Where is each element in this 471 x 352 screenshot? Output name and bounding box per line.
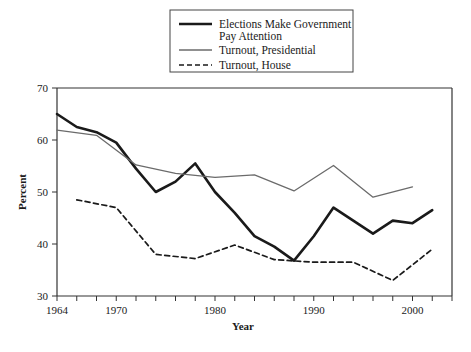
x-tick-label: 1964 (46, 304, 69, 316)
y-tick-label: 30 (37, 290, 49, 302)
series-line-2 (77, 200, 433, 281)
x-tick-label: 1990 (303, 304, 326, 316)
x-tick-label: 1980 (204, 304, 227, 316)
y-tick-label: 70 (37, 82, 49, 94)
x-axis-title: Year (232, 320, 254, 332)
y-tick-group: 3040506070 (37, 82, 57, 302)
y-tick-label: 50 (37, 186, 49, 198)
legend-label-0-line2: Pay Attention (219, 30, 282, 43)
y-axis-title: Percent (16, 174, 28, 210)
x-tick-label: 2000 (402, 304, 425, 316)
legend-label-1-line1: Turnout, Presidential (219, 44, 316, 57)
legend-label-0-line1: Elections Make Government (219, 18, 352, 30)
y-tick-label: 40 (37, 238, 49, 250)
chart-figure: 3040506070 19641970198019902000 Year Per… (0, 0, 471, 352)
x-tick-group: 19641970198019902000 (46, 296, 452, 316)
series-line-0 (57, 114, 432, 261)
y-tick-label: 60 (37, 134, 49, 146)
line-chart: 3040506070 19641970198019902000 Year Per… (0, 0, 471, 352)
chart-legend: Elections Make Government Pay Attention … (170, 10, 353, 72)
x-tick-label: 1970 (105, 304, 128, 316)
legend-label-2-line1: Turnout, House (219, 59, 291, 72)
data-series-group (57, 114, 432, 280)
